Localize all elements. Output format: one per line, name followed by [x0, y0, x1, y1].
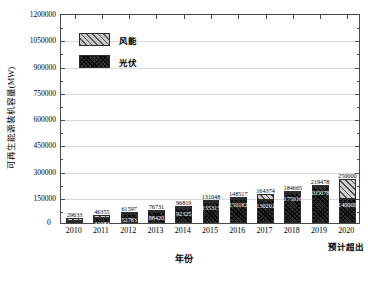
bar-segment-solar[interactable]: 88420 — [148, 212, 165, 223]
chart-figure: 可再生能源装机容量(MW) 12000001050000900000750000… — [0, 0, 368, 286]
bar-total-label: 250000 — [338, 172, 357, 179]
x-axis-tick-label: 2019 — [311, 226, 327, 235]
y-axis-tick-label: 1200000 — [30, 10, 56, 19]
bar-group[interactable]: 296331022 — [66, 218, 83, 223]
bar-segment-solar[interactable]: 205078 — [312, 187, 329, 223]
bar-segment-solar[interactable]: 135315 — [203, 202, 220, 223]
x-axis-tick-label: 2012 — [120, 226, 136, 235]
y-axis-tick-label: 150000 — [34, 193, 57, 202]
y-axis-tick-label: 900000 — [34, 62, 57, 71]
x-axis-tick-label: 2011 — [93, 226, 109, 235]
y-axis-tick-label: 450000 — [34, 141, 57, 150]
bar-solar-label: 175016 — [284, 195, 303, 202]
bar-group[interactable]: 164374130201 — [257, 194, 274, 223]
bar-total-label: 131048 — [202, 193, 221, 200]
bar-segment-solar[interactable]: 52783 — [121, 214, 138, 223]
bar-solar-label: 92325 — [176, 210, 191, 217]
bar-series-container: 2963310224635531083615975278376731884209… — [61, 15, 359, 223]
bar-total-label: 29633 — [67, 211, 82, 218]
x-axis-tick-labels: 2010201120122013201420152016201720182019… — [60, 226, 360, 240]
bar-total-label: 61597 — [121, 205, 136, 212]
bar-solar-label: 150182 — [229, 201, 248, 208]
x-axis-annotation: 预计超出 — [328, 240, 364, 252]
bar-solar-label: 205078 — [311, 189, 330, 196]
bar-segment-wind[interactable]: 250000 — [339, 179, 356, 198]
bar-total-label: 96819 — [176, 199, 191, 206]
bar-total-label: 46355 — [94, 208, 109, 215]
plot-area: 风能 光伏 2963310224635531083615975278376731… — [60, 14, 360, 224]
y-axis-tick-label: 600000 — [34, 115, 57, 124]
bar-group[interactable]: 250000140000 — [339, 179, 356, 223]
bar-group[interactable]: 131048135315 — [203, 200, 220, 223]
bar-segment-solar[interactable]: 1022 — [66, 221, 83, 223]
bar-total-label: 148517 — [229, 190, 248, 197]
x-axis-tick-label: 2014 — [175, 226, 191, 235]
x-axis-tick-label: 2013 — [147, 226, 163, 235]
bar-solar-label: 135315 — [202, 204, 221, 211]
bar-total-label: 164374 — [256, 187, 275, 194]
bar-segment-solar[interactable]: 130201 — [257, 200, 274, 223]
bar-segment-solar[interactable]: 150182 — [230, 199, 247, 223]
bar-total-label: 219478 — [311, 178, 330, 185]
bar-segment-solar[interactable]: 31083 — [93, 218, 110, 223]
x-axis-title: 年份 — [0, 252, 368, 265]
bar-total-label: 76731 — [149, 203, 164, 210]
bar-total-label: 184665 — [284, 184, 303, 191]
x-axis-tick-label: 2010 — [66, 226, 82, 235]
bar-group[interactable]: 6159752783 — [121, 212, 138, 223]
y-axis-tick-labels: 1200000105000090000075000060000045000030… — [14, 14, 58, 224]
bar-segment-solar[interactable]: 92325 — [175, 208, 192, 223]
x-axis-tick-label: 2017 — [257, 226, 273, 235]
y-axis-tick-label: 750000 — [34, 88, 57, 97]
bar-solar-label: 140000 — [338, 201, 357, 208]
bar-group[interactable]: 9681992325 — [175, 206, 192, 223]
y-axis-tick-label: 300000 — [34, 167, 57, 176]
bar-solar-label: 130201 — [256, 202, 275, 209]
bar-segment-solar[interactable]: 175016 — [284, 193, 301, 223]
x-axis-tick-label: 2020 — [338, 226, 354, 235]
bar-group[interactable]: 184665175016 — [284, 191, 301, 223]
x-axis-tick-label: 2015 — [202, 226, 218, 235]
bar-group[interactable]: 4635531083 — [93, 215, 110, 223]
x-axis-tick-label: 2018 — [284, 226, 300, 235]
bar-solar-label: 88420 — [149, 214, 164, 221]
y-axis-tick-label: 1050000 — [30, 36, 56, 45]
bar-solar-label: 52783 — [121, 216, 136, 223]
bar-group[interactable]: 7673188420 — [148, 210, 165, 223]
bar-group[interactable]: 148517150182 — [230, 197, 247, 223]
bar-group[interactable]: 219478205078 — [312, 185, 329, 223]
y-axis-zero-label: 0 — [47, 218, 51, 227]
x-axis-tick-label: 2016 — [229, 226, 245, 235]
bar-segment-solar[interactable]: 140000 — [339, 199, 356, 224]
